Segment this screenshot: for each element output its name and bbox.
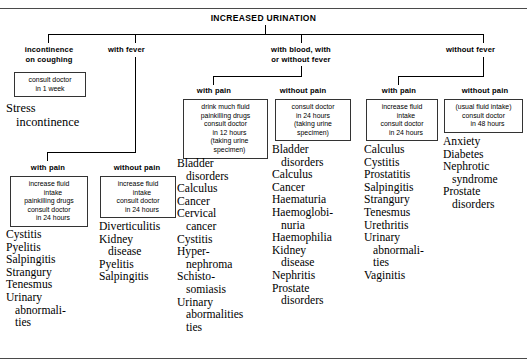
advice-box-fever-without-pain: increase fluid intake consult doctor in … [100,176,176,218]
dx-item: Salpingitis [6,254,66,267]
drop-nofever-with-pain [398,76,399,85]
advice-line: in 1 week [17,85,83,94]
branch-label-incontinence-line2: on coughing [25,55,72,64]
branch-label-blood-with-pain: with pain [184,86,244,96]
advice-line: in 24 hours [103,206,173,215]
dx-list-fever-without-pain: Diverticulitis Kidney disease Pyelitis S… [99,221,160,284]
dx-item: Bladder [177,158,243,171]
advice-line: intake [103,189,173,198]
dx-item: Nephrotic [443,161,498,174]
stem-without-fever [483,57,484,76]
advice-box-blood-with-pain: drink much fluid painkilling drugs consu… [183,99,268,159]
hbar-with-fever [47,152,136,153]
advice-line: in 24 hours [13,214,85,223]
advice-line: in 24 hours [369,129,435,138]
branch-label-incontinence: incontinence on coughing [2,45,96,64]
advice-line: (taking urine [186,137,265,146]
dx-list-blood-without-pain: Bladder disorders Calculus Cancer Haemat… [272,144,333,308]
dx-item: Calculus [272,169,333,182]
advice-line: consult doctor [369,120,435,129]
advice-line: drink much fluid [186,103,265,112]
advice-line: intake [369,112,435,121]
dx-list-fever-with-pain: Cystitis Pyelitis Salpingitis Strangury … [6,229,66,330]
dx-item: somiasis [177,284,243,297]
dx-list-blood-with-pain: Bladder disorders Calculus Cancer Cervic… [177,158,243,334]
branch-label-nofever-without-pain: without pain [452,86,518,96]
dx-item: Nephritis [272,270,333,283]
branch-label-with-fever: with fever [108,45,145,55]
drop-with-blood [301,34,302,43]
advice-box-nofever-with-pain: increase fluid intake consult doctor in … [366,99,438,141]
dx-item: Urinary [6,292,66,305]
advice-line: (usual fluid intake) [447,103,520,112]
hbar-with-blood [213,76,302,77]
dx-item: Hyper- [177,246,243,259]
advice-line: painkilling drugs [186,112,265,121]
flowchart-page: INCREASED URINATION incontinence on coug… [0,0,527,361]
dx-item: Diverticulitis [99,221,160,234]
advice-line: consult doctor [13,206,85,215]
bottom-divider [0,358,527,359]
advice-line: consult doctor [447,112,520,121]
branch-label-with-blood-line2: or without fever [271,55,330,64]
root-hbar [48,34,484,35]
top-divider [0,8,527,9]
advice-line: consult doctor [103,197,173,206]
dx-item: Stress [6,101,79,115]
advice-box-nofever-without-pain: (usual fluid intake) consult doctor in 4… [444,99,523,133]
dx-item: cancer [177,221,243,234]
dx-item: disease [99,246,160,259]
dx-item: ties [177,322,243,335]
drop-without-fever [483,34,484,43]
branch-label-with-blood-line1: with blood, with [271,45,331,54]
advice-line: increase fluid [103,180,173,189]
dx-item: incontinence [6,115,79,129]
dx-item: Anxiety [443,136,498,149]
advice-line: in 48 hours [447,120,520,129]
drop-incontinence [48,34,49,43]
dx-item: Haemoglobi- [272,207,333,220]
drop-fever-with-pain [47,152,48,161]
dx-item: Cystitis [6,229,66,242]
advice-box-incontinence: consult doctor in 1 week [14,72,86,97]
dx-item: ties [6,317,66,330]
advice-line: consult doctor [17,76,83,85]
advice-line: in 12 hours [186,129,265,138]
dx-item: Tenesmus [364,207,424,220]
dx-item: Urinary [364,232,424,245]
dx-item: Salpingitis [99,271,160,284]
branch-label-incontinence-line1: incontinence [25,45,74,54]
branch-label-fever-with-pain: with pain [18,163,78,173]
root-title: INCREASED URINATION [0,13,527,23]
root-stem [265,25,266,34]
branch-label-with-blood: with blood, with or without fever [253,45,349,64]
dx-item: disorders [272,295,333,308]
advice-line: specimen) [278,129,348,138]
dx-list-nofever-with-pain: Calculus Cystitis Prostatitis Salpingiti… [364,144,424,283]
branch-label-blood-without-pain: without pain [270,86,336,96]
hbar-without-fever [398,76,484,77]
branch-label-fever-without-pain: without pain [104,163,170,173]
dx-item: Haemophilia [272,232,333,245]
advice-line: increase fluid [369,103,435,112]
advice-line: increase fluid [13,180,85,189]
branch-label-without-fever: without fever [446,45,495,55]
dx-list-incontinence: Stress incontinence [6,101,79,129]
stem-with-fever [135,57,136,152]
dx-item: Prostatitis [364,169,424,182]
advice-line: consult doctor [186,120,265,129]
advice-box-fever-with-pain: increase fluid intake painkilling drugs … [10,176,88,227]
dx-item: Calculus [364,144,424,157]
advice-line: intake [13,189,85,198]
stem-with-blood [301,66,302,76]
advice-line: (taking urine [278,120,348,129]
branch-label-nofever-with-pain: with pain [369,86,429,96]
dx-item: Calculus [177,183,243,196]
advice-line: in 24 hours [278,112,348,121]
dx-item: abormalities [177,309,243,322]
dx-list-nofever-without-pain: Anxiety Diabetes Nephrotic syndrome Pros… [443,136,498,212]
dx-item: Bladder [272,144,333,157]
advice-line: consult doctor [278,103,348,112]
advice-line: specimen) [186,146,265,155]
advice-box-blood-without-pain: consult doctor in 24 hours (taking urine… [275,99,351,141]
